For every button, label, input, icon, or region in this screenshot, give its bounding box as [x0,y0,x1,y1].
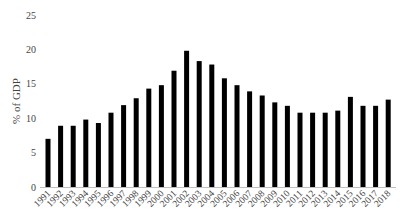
bar-2018 [386,100,391,187]
bar-1991 [46,139,51,187]
bar-1994 [83,120,88,187]
y-tick-label: 15 [26,78,36,89]
bar-2009 [272,102,277,187]
bar-2013 [323,113,328,187]
x-axis-labels: 1991199219931994199519961997199819992000… [32,188,393,209]
bar-2000 [159,85,164,187]
bar-2012 [310,113,315,187]
bar-1995 [96,123,101,187]
bar-2015 [348,97,353,187]
y-axis-title: % of GDP [10,78,22,124]
y-tick-label: 20 [26,44,36,55]
bar-2016 [361,106,366,187]
bar-1998 [134,98,139,187]
bar-2014 [335,111,340,187]
bar-2007 [247,91,252,187]
bar-2010 [285,106,290,187]
bar-2002 [184,51,189,187]
bar-2006 [235,85,240,187]
bar-2008 [260,95,265,187]
bar-2017 [373,106,378,187]
bars [46,51,391,187]
bar-chart: 0510152025 % of GDP 19911992199319941995… [0,0,409,223]
bar-1999 [146,89,151,187]
y-tick-label: 0 [31,182,36,193]
bar-1996 [109,113,114,187]
y-tick-label: 10 [26,113,36,124]
bar-2005 [222,78,227,187]
bar-2011 [298,113,303,187]
bar-1997 [121,105,126,187]
bar-1992 [58,126,63,187]
bar-1993 [71,126,76,187]
y-tick-label: 5 [31,147,36,158]
bar-2004 [209,65,214,187]
y-tick-label: 25 [26,10,36,21]
y-axis: 0510152025 [26,10,36,193]
bar-2003 [197,61,202,187]
bar-2001 [172,71,177,187]
